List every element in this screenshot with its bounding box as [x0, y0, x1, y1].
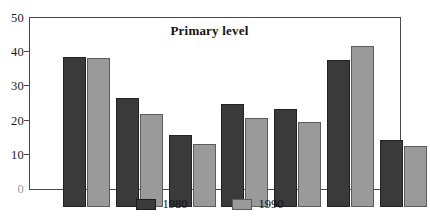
bar — [380, 140, 403, 207]
plot-area — [29, 17, 401, 190]
bar-group — [219, 36, 272, 207]
y-axis-tick-label: 30 — [2, 80, 24, 93]
bar — [221, 104, 244, 207]
y-axis-tick-label: 20 — [2, 114, 24, 127]
bar — [140, 114, 163, 207]
chart-title: Primary level — [0, 23, 419, 39]
y-axis-tick-label: 40 — [2, 46, 24, 59]
bar-group — [113, 36, 166, 207]
bar-group — [60, 36, 113, 207]
legend-label: 1990 — [259, 198, 284, 211]
bar — [298, 122, 321, 207]
bars-layer — [60, 36, 430, 207]
bar-group — [166, 36, 219, 207]
y-axis-tick-label: 0 — [2, 183, 24, 196]
legend: 19801990 — [0, 198, 419, 211]
legend-swatch-icon — [136, 199, 156, 210]
legend-entry: 1990 — [232, 198, 284, 211]
bar — [327, 60, 350, 207]
bar-group — [271, 36, 324, 207]
legend-swatch-icon — [232, 199, 252, 210]
bar — [274, 109, 297, 207]
legend-entry: 1980 — [136, 198, 188, 211]
bar — [351, 46, 374, 207]
legend-label: 1980 — [163, 198, 188, 211]
bar — [87, 58, 110, 207]
bar-group — [377, 36, 430, 207]
bar — [116, 98, 139, 207]
y-axis-tick-label: 10 — [2, 149, 24, 162]
bar — [245, 118, 268, 207]
bar — [63, 57, 86, 207]
bar-group — [324, 36, 377, 207]
